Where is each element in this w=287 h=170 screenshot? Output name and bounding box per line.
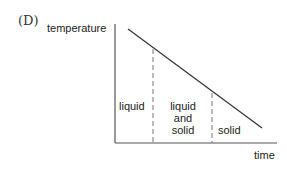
- option-label: (D): [18, 15, 39, 27]
- region-solid-label: solid: [218, 124, 241, 136]
- region-liquid-label: liquid: [119, 100, 145, 112]
- region-line: solid: [160, 124, 206, 136]
- y-axis-label: temperature: [47, 22, 106, 34]
- region-line: and: [160, 112, 206, 124]
- region-line: liquid: [160, 100, 206, 112]
- region-liquid-and-solid-label: liquid and solid: [160, 100, 206, 136]
- diagram-graphics: [0, 0, 287, 170]
- cooling-curve-diagram: (D) temperature time liquid liquid and s…: [0, 0, 287, 170]
- x-axis-label: time: [254, 149, 275, 161]
